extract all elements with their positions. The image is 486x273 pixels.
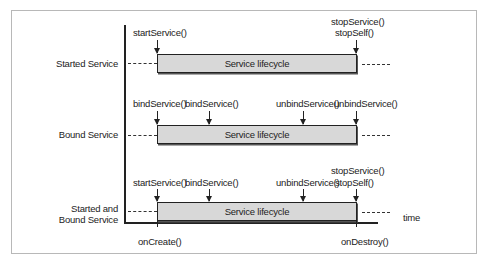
tick-oncreate: [157, 217, 158, 227]
event-label-stop-self: stopSelf(): [335, 177, 374, 188]
time-axis-line: [124, 222, 378, 224]
event-label-stop-service: stopService(): [331, 165, 384, 176]
event-label-stop-self: stopSelf(): [335, 27, 374, 38]
event-label-start-service: startService(): [133, 177, 187, 188]
arrow-down-icon: [157, 189, 158, 201]
y-axis-line: [124, 25, 126, 223]
arrow-down-icon: [157, 111, 158, 124]
dashed-after: [362, 135, 390, 136]
arrow-down-icon: [303, 189, 304, 201]
dashed-before: [128, 63, 157, 64]
dashed-after: [362, 212, 390, 213]
arrow-down-icon: [356, 189, 357, 201]
event-label-bind-service-2: bindService(): [185, 98, 238, 109]
row-label: Bound Service: [8, 129, 118, 140]
event-label-bind-service: bindService(): [185, 177, 238, 188]
event-label-stop-service: stopService(): [331, 16, 384, 27]
tick-ondestroy: [356, 217, 357, 227]
row-label-line2: Bound Service: [8, 214, 118, 225]
arrow-down-icon: [209, 189, 210, 201]
service-lifecycle-bar: Service lifecycle: [157, 202, 357, 221]
dashed-before: [128, 135, 157, 136]
arrow-down-icon: [157, 40, 158, 53]
arrow-down-icon: [356, 111, 357, 124]
axis-label-oncreate: onCreate(): [138, 236, 181, 247]
arrow-down-icon: [356, 40, 357, 53]
service-lifecycle-bar: Service lifecycle: [157, 54, 357, 73]
event-label-bind-service-1: bindService(): [133, 98, 186, 109]
arrow-down-icon: [209, 111, 210, 124]
axis-label-time: time: [403, 212, 420, 223]
row-label: Started Service: [8, 58, 118, 69]
event-label-unbind-service: unbindService(): [276, 177, 340, 188]
service-lifecycle-bar: Service lifecycle: [157, 125, 357, 144]
event-label-unbind-service-2: unbindService(): [334, 98, 398, 109]
event-label-unbind-service-1: unbindService(): [276, 98, 340, 109]
arrow-down-icon: [303, 111, 304, 124]
dashed-before: [128, 211, 157, 212]
row-label-line1: Started and: [8, 203, 118, 214]
dashed-after: [362, 64, 390, 65]
event-label-start-service: startService(): [133, 27, 187, 38]
axis-label-ondestroy: onDestroy(): [341, 236, 388, 247]
